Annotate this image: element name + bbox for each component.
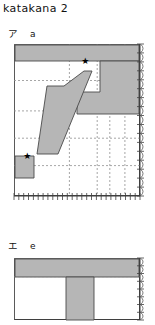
- panel-romaji-e: e: [30, 241, 36, 251]
- stroke-plot-a[interactable]: ★★: [14, 44, 140, 196]
- panel-romaji-a: a: [30, 29, 36, 39]
- plot-canvas-e: [14, 258, 146, 325]
- ink-region-top-horizontal-bar: [15, 259, 139, 277]
- panel-label-e: エe: [8, 238, 36, 252]
- ink-region-lower-left-foot: [15, 156, 34, 178]
- ink-region-upper-right-block: [77, 61, 139, 114]
- ink-region-top-horizontal-bar: [15, 45, 139, 61]
- panel-kana-a: ア: [8, 28, 18, 39]
- ink-region-vertical-stem: [66, 277, 94, 320]
- figure-title: katakana 2: [3, 2, 68, 15]
- stroke-plot-e[interactable]: [14, 258, 140, 320]
- panel-label-a: アa: [8, 26, 36, 40]
- plot-canvas-a: [14, 44, 146, 202]
- panel-kana-e: エ: [8, 240, 18, 251]
